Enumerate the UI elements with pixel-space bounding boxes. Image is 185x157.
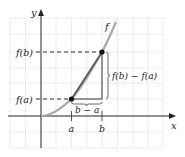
run-annotation: b − a xyxy=(75,105,99,115)
secant-slope-diagram: y x f f(b) f(a) a b f(b) − f(a) b − a xyxy=(0,0,185,157)
grid xyxy=(10,18,163,148)
x-tick-a: a xyxy=(69,123,75,134)
x-tick-b: b xyxy=(99,123,105,134)
curve-label: f xyxy=(104,21,111,32)
curve-f xyxy=(41,22,116,116)
rise-annotation: f(b) − f(a) xyxy=(111,71,158,81)
rise-brace-icon xyxy=(106,52,110,99)
y-tick-f-a: f(a) xyxy=(15,94,33,105)
y-axis-arrow-icon xyxy=(38,9,44,16)
point-b xyxy=(99,49,104,54)
y-axis-label: y xyxy=(30,7,37,18)
x-axis-label: x xyxy=(171,120,177,131)
dashed-guides xyxy=(36,52,102,99)
x-axis-arrow-icon xyxy=(169,113,176,119)
y-tick-f-b: f(b) xyxy=(15,47,33,58)
point-a xyxy=(69,96,74,101)
